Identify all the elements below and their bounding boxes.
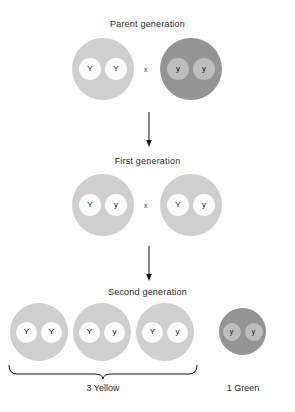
allele-second-1-right: Y — [41, 322, 62, 343]
arrow-parent-to-first — [142, 112, 156, 148]
organism-second-2: Y y — [73, 303, 131, 361]
allele-second-4-right: y — [245, 323, 263, 341]
allele-second-4-left: y — [223, 323, 241, 341]
allele-first-2-left: Y — [167, 194, 189, 216]
allele-second-2-left: Y — [79, 322, 100, 343]
allele-second-3-right: y — [167, 322, 188, 343]
first-generation-title: First generation — [0, 156, 295, 166]
organism-second-4: y y — [219, 308, 266, 355]
organism-first-right: Y y — [160, 174, 222, 236]
organism-parent-yellow: Y Y — [72, 38, 134, 100]
organism-second-3: Y y — [136, 303, 194, 361]
parent-generation-title: Parent generation — [0, 19, 295, 29]
allele-second-2-right: y — [104, 322, 125, 343]
arrow-first-to-second — [142, 246, 156, 282]
allele-first-2-right: y — [193, 194, 215, 216]
second-generation-title: Second generation — [0, 287, 295, 297]
allele-parent-2-left: y — [167, 58, 189, 80]
allele-parent-1-left: Y — [79, 58, 101, 80]
cross-symbol-first: x — [144, 202, 148, 209]
organism-second-1: Y Y — [10, 303, 68, 361]
allele-first-1-right: y — [105, 194, 127, 216]
organism-first-left: Y y — [72, 174, 134, 236]
allele-parent-1-right: Y — [105, 58, 127, 80]
cross-symbol-parent: x — [144, 66, 148, 73]
organism-parent-green: y y — [160, 38, 222, 100]
genetics-diagram: Parent generation Y Y x y y First genera… — [0, 0, 295, 412]
allele-second-3-left: Y — [142, 322, 163, 343]
green-count-label: 1 Green — [198, 383, 288, 393]
allele-first-1-left: Y — [79, 194, 101, 216]
allele-second-1-left: Y — [16, 322, 37, 343]
yellow-count-label: 3 Yellow — [8, 383, 198, 393]
allele-parent-2-right: y — [193, 58, 215, 80]
yellow-group-brace — [8, 364, 198, 380]
